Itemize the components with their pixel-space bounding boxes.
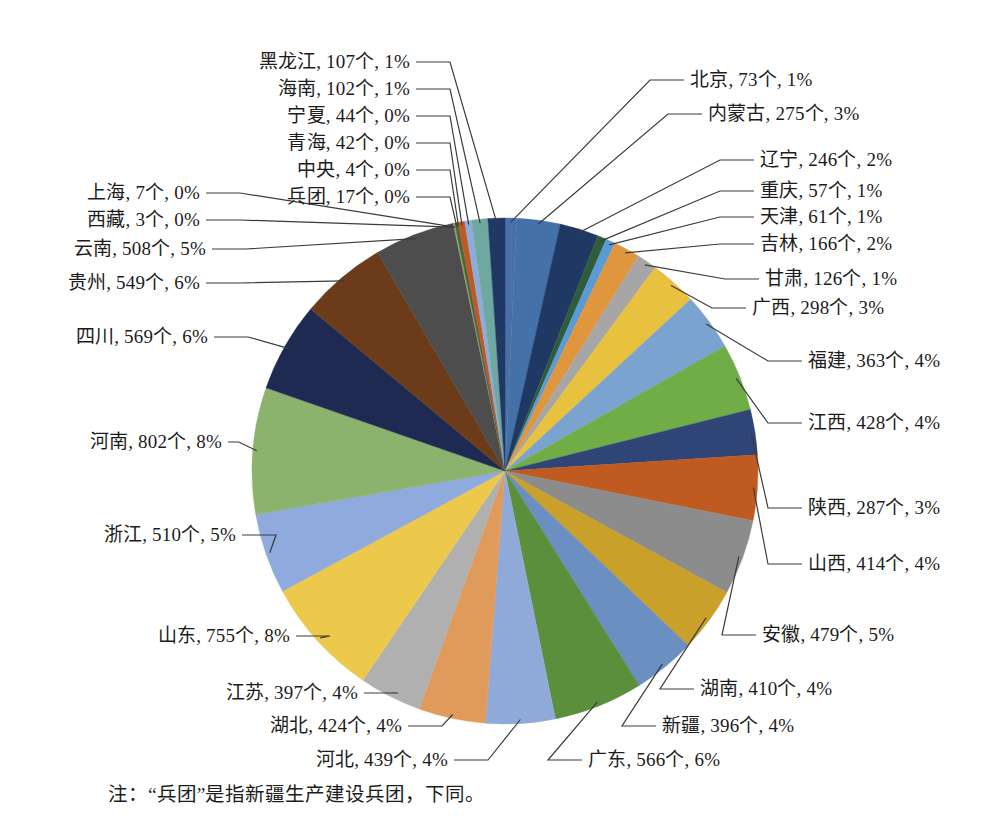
pie-label-3: 重庆, 57个, 1%	[760, 180, 883, 202]
pie-label-text: 辽宁, 246个, 2%	[760, 149, 892, 170]
pie-label-26: 上海, 7个, 0%	[87, 182, 200, 204]
pie-label-text: 安徽, 479个, 5%	[762, 624, 894, 645]
pie-label-23: 贵州, 549个, 6%	[68, 272, 200, 294]
pie-label-text: 内蒙古, 275个, 3%	[708, 103, 859, 124]
pie-label-10: 陕西, 287个, 3%	[808, 497, 940, 519]
pie-label-text: 陕西, 287个, 3%	[808, 497, 940, 518]
pie-label-4: 天津, 61个, 1%	[760, 206, 883, 228]
leader-line	[601, 191, 754, 241]
pie-label-text: 福建, 363个, 4%	[808, 350, 940, 371]
pie-label-28: 中央, 4个, 0%	[297, 159, 410, 181]
pie-label-text: 上海, 7个, 0%	[87, 182, 200, 203]
pie-label-text: 湖北, 424个, 4%	[270, 715, 402, 736]
leader-line	[416, 62, 497, 222]
pie-label-text: 吉林, 166个, 2%	[760, 233, 892, 254]
pie-label-text: 北京, 73个, 1%	[690, 69, 813, 90]
pie-label-text: 广西, 298个, 3%	[752, 297, 884, 318]
pie-label-text: 山西, 414个, 4%	[808, 553, 940, 574]
pie-label-21: 河南, 802个, 8%	[90, 431, 222, 453]
pie-label-16: 河北, 439个, 4%	[316, 749, 448, 771]
pie-label-15: 广东, 566个, 6%	[588, 749, 720, 771]
leader-line	[416, 143, 462, 226]
pie-label-text: 新疆, 396个, 4%	[662, 715, 794, 736]
pie-label-27: 兵团, 17个, 0%	[287, 186, 410, 208]
pie-label-18: 江苏, 397个, 4%	[226, 682, 358, 704]
pie-label-text: 广东, 566个, 6%	[588, 749, 720, 770]
pie-label-12: 安徽, 479个, 5%	[762, 624, 894, 646]
leader-line	[454, 720, 520, 761]
pie-label-text: 青海, 42个, 0%	[287, 132, 410, 153]
pie-label-text: 天津, 61个, 1%	[760, 206, 883, 227]
pie-label-text: 甘肃, 126个, 1%	[765, 268, 897, 289]
pie-label-text: 江苏, 397个, 4%	[226, 682, 358, 703]
leader-line	[609, 217, 754, 245]
leader-line	[206, 281, 344, 283]
pie-label-0: 北京, 73个, 1%	[690, 69, 813, 91]
leader-line	[416, 89, 480, 223]
pie-label-6: 甘肃, 126个, 1%	[765, 268, 897, 290]
pie-label-24: 云南, 508个, 5%	[74, 238, 206, 260]
pie-label-5: 吉林, 166个, 2%	[760, 233, 892, 255]
pie-label-text: 山东, 755个, 8%	[158, 625, 290, 646]
pie-label-text: 重庆, 57个, 1%	[760, 180, 883, 201]
pie-label-19: 山东, 755个, 8%	[158, 625, 290, 647]
pie-label-8: 福建, 363个, 4%	[808, 350, 940, 372]
leader-line	[511, 80, 684, 222]
leader-line	[751, 433, 802, 508]
leader-line	[753, 488, 802, 564]
pie-label-22: 四川, 569个, 6%	[76, 326, 208, 348]
figure-note: 注：“兵团”是指新疆生产建设兵团，下同。	[108, 778, 485, 807]
pie-label-text: 黑龙江, 107个, 1%	[259, 51, 410, 72]
pie-label-text: 江西, 428个, 4%	[808, 412, 940, 433]
leader-line	[416, 170, 459, 226]
pie-label-text: 中央, 4个, 0%	[297, 159, 410, 180]
pie-label-text: 西藏, 3个, 0%	[87, 209, 200, 230]
pie-label-17: 湖北, 424个, 4%	[270, 715, 402, 737]
leader-line	[625, 244, 754, 253]
pie-label-text: 河南, 802个, 8%	[90, 431, 222, 452]
leader-line	[578, 160, 754, 233]
pie-label-13: 湖南, 410个, 4%	[700, 678, 832, 700]
pie-label-9: 江西, 428个, 4%	[808, 412, 940, 434]
pie-chart-figure: 北京, 73个, 1%内蒙古, 275个, 3%辽宁, 246个, 2%重庆, …	[0, 0, 1006, 822]
pie-label-2: 辽宁, 246个, 2%	[760, 149, 892, 171]
pie-slices-group	[252, 218, 758, 724]
pie-label-text: 宁夏, 44个, 0%	[287, 105, 410, 126]
leader-line	[228, 442, 257, 451]
pie-label-29: 青海, 42个, 0%	[287, 132, 410, 154]
pie-label-text: 河北, 439个, 4%	[316, 749, 448, 770]
pie-label-1: 内蒙古, 275个, 3%	[708, 103, 859, 125]
pie-label-7: 广西, 298个, 3%	[752, 297, 884, 319]
pie-label-30: 宁夏, 44个, 0%	[287, 105, 410, 127]
pie-label-text: 兵团, 17个, 0%	[287, 186, 410, 207]
pie-label-text: 浙江, 510个, 5%	[104, 524, 236, 545]
pie-label-text: 海南, 102个, 1%	[278, 78, 410, 99]
pie-label-11: 山西, 414个, 4%	[808, 553, 940, 575]
leader-line	[212, 239, 416, 249]
pie-label-text: 贵州, 549个, 6%	[68, 272, 200, 293]
pie-label-31: 海南, 102个, 1%	[278, 78, 410, 100]
pie-label-14: 新疆, 396个, 4%	[662, 715, 794, 737]
pie-label-32: 黑龙江, 107个, 1%	[259, 51, 410, 73]
leader-line	[214, 337, 288, 348]
pie-label-25: 西藏, 3个, 0%	[87, 209, 200, 231]
pie-label-text: 云南, 508个, 5%	[74, 238, 206, 259]
pie-label-text: 四川, 569个, 6%	[76, 326, 208, 347]
pie-label-20: 浙江, 510个, 5%	[104, 524, 236, 546]
pie-label-text: 湖南, 410个, 4%	[700, 678, 832, 699]
